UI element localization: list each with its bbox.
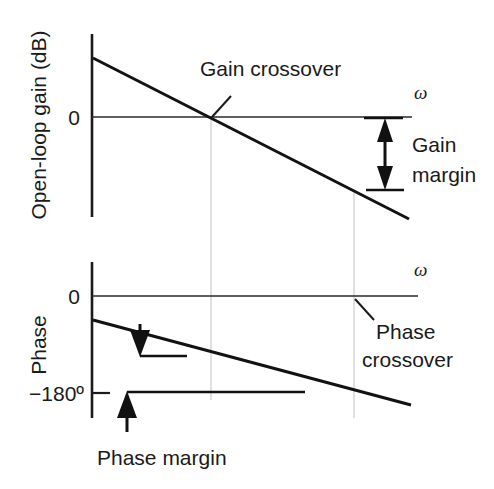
phase-y-axis-label: Phase	[27, 315, 50, 375]
figure-canvas: 0 Open-loop gain (dB) ω Gain crossover G…	[0, 0, 494, 489]
gain-crossover-label: Gain crossover	[200, 57, 341, 80]
phase-y-tick-0: 0	[68, 285, 80, 308]
phase-margin-arrowhead-up	[117, 391, 137, 418]
phase-margin-upper-arrow	[130, 324, 187, 357]
phase-margin-label: Phase margin	[97, 446, 227, 469]
gain-y-tick-0: 0	[68, 106, 80, 129]
phase-margin-arrowhead-down	[130, 330, 150, 357]
gain-margin-label-line2: margin	[412, 163, 476, 186]
phase-crossover-leader-line	[355, 299, 374, 320]
gain-x-axis-label-omega: ω	[414, 82, 427, 103]
gain-margin-arrowhead-up	[377, 118, 393, 142]
phase-plot: 0 −180º Phase ω Phase crossover	[27, 259, 453, 469]
gain-margin-label-line1: Gain	[412, 133, 456, 156]
phase-y-tick-minus180: −180º	[29, 382, 84, 405]
phase-crossover-label-line1: Phase	[376, 320, 436, 343]
gain-crossover-leader-line	[212, 96, 231, 117]
gain-y-axis-label: Open-loop gain (dB)	[27, 30, 50, 219]
gain-plot: 0 Open-loop gain (dB) ω Gain crossover G…	[27, 30, 476, 219]
gain-curve	[93, 58, 409, 219]
gain-margin-arrow	[364, 118, 404, 190]
gain-margin-arrowhead-down	[377, 166, 393, 190]
bode-plot-figure: 0 Open-loop gain (dB) ω Gain crossover G…	[0, 0, 494, 489]
phase-x-axis-label-omega: ω	[414, 259, 427, 280]
phase-crossover-label-line2: crossover	[362, 348, 453, 371]
